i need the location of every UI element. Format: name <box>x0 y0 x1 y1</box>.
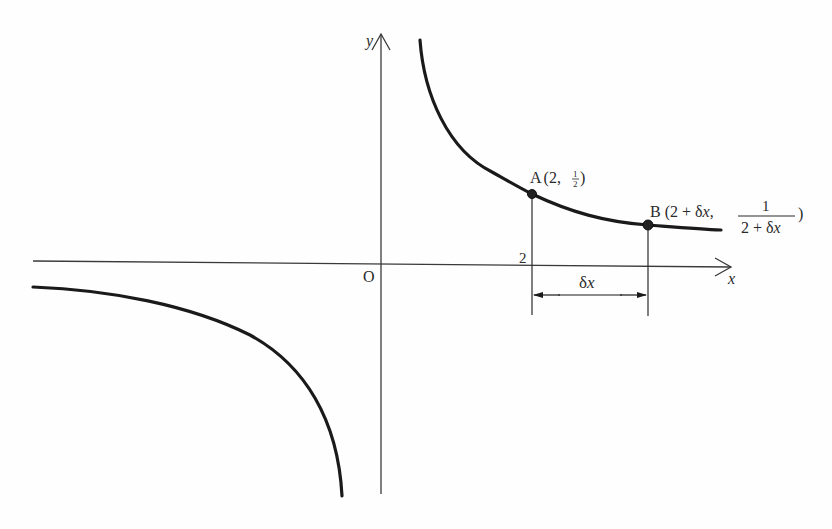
x-axis <box>33 258 731 276</box>
svg-text:2: 2 <box>573 179 578 189</box>
curve-lower-branch <box>33 287 342 496</box>
svg-text:1: 1 <box>573 169 578 179</box>
x-tick-label-2: 2 <box>519 250 527 266</box>
diagram-canvas: y x O 2 A(2, 1 2 ) B(2 + δx, 1 2 + δx ) <box>0 0 832 529</box>
point-a-name: A <box>530 169 542 186</box>
svg-text:2 + δx: 2 + δx <box>741 219 781 236</box>
svg-text:): ) <box>798 205 803 223</box>
point-b-label: B(2 + δx, 1 2 + δx ) <box>650 198 803 236</box>
point-b <box>643 220 653 230</box>
svg-text:B(2 + δx,: B(2 + δx, <box>650 203 714 221</box>
y-axis-label: y <box>364 32 374 50</box>
svg-text:): ) <box>580 169 585 187</box>
point-a <box>528 190 537 199</box>
curve-upper-branch <box>420 40 721 230</box>
point-b-name: B <box>650 203 661 220</box>
svg-text:A(2,: A(2, <box>530 169 561 187</box>
origin-label: O <box>363 268 375 285</box>
delta-x-label: δx <box>579 273 595 292</box>
x-axis-label: x <box>727 270 735 287</box>
svg-text:1: 1 <box>762 198 770 214</box>
point-a-label: A(2, 1 2 ) <box>530 169 585 189</box>
hyperbola-graph: y x O 2 A(2, 1 2 ) B(2 + δx, 1 2 + δx ) <box>0 0 832 529</box>
